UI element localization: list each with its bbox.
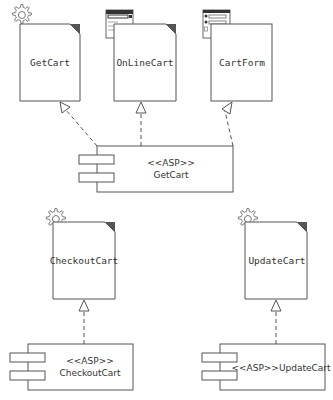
- component-diagram: GetCart OnLineCart CartForm: [0, 0, 333, 400]
- document-label: GetCart: [30, 57, 70, 68]
- dependency-updatecart-to-updatecart-doc: [271, 300, 281, 344]
- dependency-getcart-to-cartform-doc: [222, 102, 233, 146]
- document-label: OnLineCart: [116, 57, 173, 68]
- dependency-getcart-to-onlinecart-doc: [136, 102, 146, 146]
- arrowhead: [60, 102, 70, 113]
- component-port: [79, 173, 114, 182]
- component-name: GetCart: [153, 170, 189, 180]
- arrowhead: [79, 300, 89, 311]
- arrowhead: [271, 300, 281, 311]
- arrowhead: [136, 102, 146, 113]
- dependency-checkoutcart-to-checkoutcart-doc: [79, 300, 89, 344]
- getcart-asp-component[interactable]: <<ASP>> GetCart: [79, 146, 233, 192]
- component-stereotype: <<ASP>>: [66, 356, 113, 366]
- document-label: UpdateCart: [248, 255, 305, 266]
- component-port: [10, 353, 45, 362]
- component-name: CheckoutCart: [59, 368, 121, 378]
- gear-icon: [12, 5, 31, 24]
- component-port: [79, 155, 114, 164]
- component-port: [10, 371, 45, 380]
- onlinecart-document[interactable]: OnLineCart: [106, 10, 176, 101]
- component-stereotype: <<ASP>>: [147, 158, 194, 168]
- component-port: [202, 353, 237, 362]
- updatecart-asp-component[interactable]: <<ASP>>UpdateCart: [202, 344, 331, 390]
- cartform-document[interactable]: CartForm: [203, 10, 272, 101]
- document-label: CheckoutCart: [50, 255, 119, 266]
- checkoutcart-asp-component[interactable]: <<ASP>> CheckoutCart: [10, 344, 133, 390]
- component-label: <<ASP>>UpdateCart: [231, 363, 331, 373]
- updatecart-document[interactable]: UpdateCart: [238, 209, 307, 300]
- document-label: CartForm: [219, 57, 265, 68]
- getcart-document[interactable]: GetCart: [12, 5, 80, 102]
- checkoutcart-document[interactable]: CheckoutCart: [46, 209, 118, 300]
- dependency-getcart-to-getcart-doc: [60, 102, 97, 146]
- arrowhead: [222, 102, 232, 114]
